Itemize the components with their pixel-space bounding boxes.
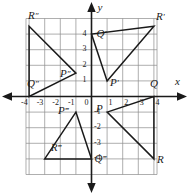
prime-mark: ‴ [57,143,61,153]
prime-mark: ‴ [102,154,106,164]
y-tick-label-neg4: -4 [94,154,101,162]
prime-mark: ′ [163,12,165,22]
coordinate-plane-figure: PQRP′Q′R′P″Q″R″P‴Q‴R‴xy-4-3-2-1012344321… [0,0,189,195]
prime-mark: ″ [35,11,39,21]
prime-mark: ″ [35,79,39,89]
prime-mark: ′ [117,78,119,88]
y-tick-label-1: 1 [83,76,87,84]
x-axis-label: x [175,76,180,87]
vertex-label-Q-prime: Q′ [97,28,107,39]
vertex-label-Q: Q [150,78,158,89]
plane-svg [0,0,189,195]
x-tick-label-neg3: -3 [37,99,44,107]
x-tick-label-neg2: -2 [52,99,59,107]
prime-mark: ″ [67,69,71,79]
vertex-label-P-double-prime: P″ [60,68,70,79]
vertex-label-Q-double-prime: Q″ [27,78,39,89]
x-axis-arrow-left [2,92,12,100]
vertex-label-P-triple-prime: P‴ [58,105,69,116]
vertex-label-P-prime: P′ [110,77,119,88]
y-tick-label-2: 2 [83,61,87,69]
x-tick-label-1: 1 [109,99,113,107]
x-tick-label-3: 3 [140,99,144,107]
x-tick-label-neg4: -4 [21,99,28,107]
vertex-label-R: R [157,154,164,165]
x-axis-arrow-right [177,92,187,100]
x-tick-label-4: 4 [155,99,159,107]
vertex-label-R-triple-prime: R‴ [51,142,62,153]
y-tick-label-4: 4 [83,30,87,38]
y-axis-label: y [98,2,103,13]
y-tick-label-neg2: -2 [94,123,101,131]
vertex-label-R-double-prime: R″ [28,10,38,21]
y-axis-arrow-down [87,183,95,193]
x-tick-label-0: 0 [85,99,89,107]
x-tick-label-neg1: -1 [68,99,75,107]
y-tick-label-neg3: -3 [94,139,101,147]
y-axis-arrow-up [87,2,95,12]
prime-mark: ′ [104,29,106,39]
prime-mark: ‴ [65,106,69,116]
vertex-label-R-prime: R′ [156,11,165,22]
y-tick-label-3: 3 [83,45,87,53]
y-tick-label-neg1: -1 [94,108,101,116]
x-tick-label-2: 2 [124,99,128,107]
